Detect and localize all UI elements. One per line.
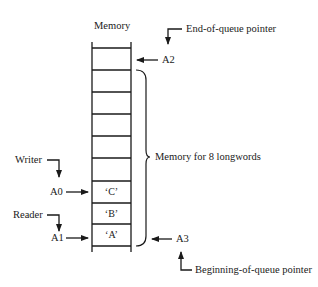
diagram-lines (0, 0, 318, 287)
memory-cell-6: ‘B’ (92, 208, 131, 220)
a3-register-label: A3 (176, 233, 189, 245)
brace-icon (136, 70, 150, 246)
brace-label: Memory for 8 longwords (155, 151, 261, 163)
memory-column (92, 42, 131, 252)
end-of-queue-arrow-icon (168, 29, 182, 44)
end-of-queue-label: End-of-queue pointer (186, 23, 276, 35)
beginning-of-queue-label: Beginning-of-queue pointer (195, 264, 312, 276)
writer-arrow-icon (47, 160, 59, 177)
a0-register-label: A0 (50, 186, 63, 198)
reader-label: Reader (13, 209, 43, 221)
writer-label: Writer (15, 154, 42, 166)
beginning-of-queue-arrow-icon (181, 252, 192, 270)
queue-memory-diagram: Memory ‘C’ ‘B’ ‘A’ Memory for 8 longword… (0, 0, 318, 287)
a2-register-label: A2 (162, 54, 175, 66)
memory-cell-7: ‘A’ (92, 229, 131, 241)
reader-arrow-icon (47, 215, 59, 231)
a1-register-label: A1 (51, 232, 64, 244)
memory-cell-5: ‘C’ (92, 186, 131, 198)
memory-title: Memory (94, 20, 130, 32)
